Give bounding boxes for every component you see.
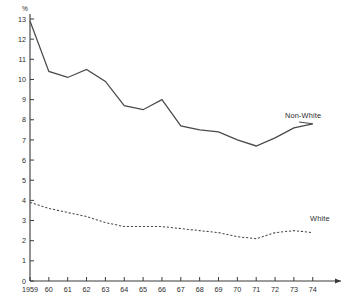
y-axis-tick-label: 1 <box>22 256 26 265</box>
y-axis-tick-labels: 012345678910111213 <box>18 15 26 286</box>
x-axis-tick-label: 69 <box>215 285 223 294</box>
x-axis-tick-label: 68 <box>196 285 204 294</box>
x-axis-tick-label: 64 <box>120 285 128 294</box>
y-axis-tick-label: 11 <box>19 55 26 64</box>
y-axis: 012345678910111213 <box>18 14 34 286</box>
y-axis-unit-label: % <box>22 5 28 12</box>
y-axis-tick-label: 12 <box>18 35 26 44</box>
y-axis-tick-label: 6 <box>22 156 26 165</box>
series-label-non-white: Non-White <box>285 111 321 120</box>
y-axis-tick-label: 13 <box>18 15 26 24</box>
x-axis-tick-label: 71 <box>252 285 260 294</box>
y-axis-tick-label: 7 <box>22 136 26 145</box>
series-label-white: White <box>310 214 330 223</box>
x-axis-tick-label: 60 <box>45 285 53 294</box>
x-axis-tick-label: 66 <box>158 285 166 294</box>
series-line-non-white <box>30 21 313 146</box>
series-line-white <box>30 202 313 238</box>
x-axis-arrow-head <box>335 279 341 284</box>
x-axis-tick-label: 1959 <box>22 285 38 294</box>
x-axis-tick-label: 63 <box>101 285 109 294</box>
x-axis-tick-label: 73 <box>290 285 298 294</box>
y-axis-tick-label: 8 <box>22 115 26 124</box>
x-axis-tick-label: 61 <box>64 285 72 294</box>
y-axis-tick-label: 9 <box>22 95 26 104</box>
y-axis-tick-label: 4 <box>22 196 26 205</box>
unemployment-rate-line-chart: 012345678910111213 195960616263646566676… <box>0 0 345 305</box>
chart-canvas: 012345678910111213 195960616263646566676… <box>0 0 345 305</box>
non-white-leader-line <box>299 122 313 124</box>
x-axis: 1959606162636465666768697071727374 <box>22 277 341 294</box>
x-axis-tick-label: 70 <box>233 285 241 294</box>
y-axis-tick-label: 5 <box>22 176 26 185</box>
y-axis-ticks <box>30 19 34 281</box>
x-axis-tick-label: 62 <box>83 285 91 294</box>
x-axis-tick-label: 72 <box>271 285 279 294</box>
x-axis-tick-label: 74 <box>309 285 317 294</box>
x-axis-tick-label: 65 <box>139 285 147 294</box>
x-axis-tick-label: 67 <box>177 285 185 294</box>
y-axis-tick-label: 2 <box>22 236 26 245</box>
x-axis-tick-labels: 1959606162636465666768697071727374 <box>22 285 317 294</box>
y-axis-tick-label: 3 <box>22 216 26 225</box>
y-axis-tick-label: 10 <box>18 75 26 84</box>
x-axis-ticks <box>30 277 313 281</box>
